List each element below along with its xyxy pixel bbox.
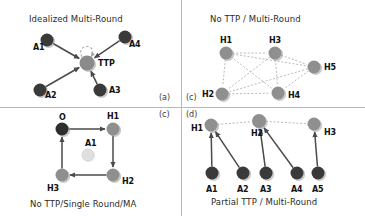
node-label-panel-c-top-h2: H2 — [202, 90, 214, 99]
node-panel-d-h3[interactable] — [308, 118, 323, 132]
edge-h3-h4 — [275, 59, 277, 85]
node-label-panel-c-top-h4: H4 — [288, 91, 300, 100]
node-panel-c-bottom-h3[interactable] — [56, 169, 71, 183]
node-label-panel-c-bottom-a1: A1 — [85, 139, 97, 148]
node-circle[interactable] — [252, 114, 266, 128]
node-circle[interactable] — [269, 47, 282, 60]
node-panel-c-bottom-h1[interactable] — [107, 123, 122, 137]
node-label-panel-c-bottom-h1: H1 — [107, 112, 119, 121]
node-circle[interactable] — [260, 167, 273, 180]
node-circle[interactable] — [107, 169, 120, 182]
node-panel-a-ttp[interactable] — [80, 56, 97, 72]
node-panel-d-a3[interactable] — [260, 167, 275, 181]
node-panel-c-bottom-h2[interactable] — [107, 169, 122, 183]
node-circle[interactable] — [220, 47, 233, 60]
node-label-panel-c-top-h5: H5 — [324, 63, 336, 72]
node-circle[interactable] — [107, 123, 120, 136]
node-label-panel-d-a4: A4 — [291, 185, 303, 194]
edge-a4-h2 — [264, 128, 293, 168]
node-circle[interactable] — [308, 61, 321, 74]
edge-h1-h2 — [223, 59, 226, 86]
node-label-panel-d-h3: H3 — [324, 128, 336, 137]
edge-a2-h1 — [215, 132, 239, 168]
node-label-panel-d-h2: H2 — [251, 129, 263, 138]
edge-a1-ttp — [53, 43, 80, 58]
node-panel-c-top-h1[interactable] — [220, 47, 235, 61]
node-circle[interactable] — [206, 167, 219, 180]
node-label-panel-d-a5: A5 — [312, 185, 324, 194]
node-label-panel-d-a3: A3 — [260, 185, 272, 194]
node-panel-d-h1[interactable] — [205, 119, 220, 133]
figure-root: Idealized Multi-Round No TTP / Multi-Rou… — [0, 0, 365, 216]
edge-a3-ttp — [91, 71, 97, 84]
node-circle[interactable] — [312, 167, 325, 180]
node-panel-d-h2[interactable] — [252, 114, 268, 129]
node-circle[interactable] — [82, 149, 94, 161]
node-panel-c-top-h2[interactable] — [216, 88, 231, 102]
node-circle[interactable] — [291, 167, 304, 180]
node-circle[interactable] — [308, 118, 321, 131]
node-panel-d-a4[interactable] — [291, 167, 306, 181]
node-circle[interactable] — [94, 84, 107, 97]
node-panel-c-top-h5[interactable] — [308, 61, 323, 75]
edge-h5-h4 — [284, 71, 308, 89]
edge-a4-ttp — [94, 41, 119, 58]
node-circle[interactable] — [56, 169, 69, 182]
node-panel-c-top-h3[interactable] — [269, 47, 284, 61]
node-circle[interactable] — [237, 167, 250, 180]
edge-a2-ttp — [46, 67, 80, 86]
node-panel-c-bottom-o[interactable] — [56, 123, 71, 137]
edge-h1-h2 — [217, 122, 250, 125]
node-label-panel-c-bottom-h3: H3 — [47, 184, 59, 193]
node-label-panel-a-ttp: TTP — [98, 59, 115, 68]
edge-h2-h3 — [266, 121, 306, 123]
edge-a1-h1 — [211, 133, 212, 167]
node-label-panel-d-h1: H1 — [191, 124, 203, 133]
node-label-panel-d-a1: A1 — [206, 185, 218, 194]
edge-h2-h4 — [228, 93, 270, 94]
node-label-panel-c-top-h3: H3 — [269, 36, 281, 45]
edge-self-loop-ttp — [81, 47, 93, 58]
node-label-panel-a-a2: A2 — [45, 91, 57, 100]
node-label-panel-a-a3: A3 — [109, 86, 121, 95]
node-circle[interactable] — [216, 88, 229, 101]
node-panel-d-a2[interactable] — [237, 167, 252, 181]
node-panel-c-top-h4[interactable] — [272, 87, 287, 101]
node-label-panel-a-a1: A1 — [33, 43, 45, 52]
node-label-panel-c-top-h1: H1 — [220, 36, 232, 45]
edge-h1-h4 — [231, 57, 272, 88]
node-panel-a-a3[interactable] — [94, 84, 109, 98]
node-circle[interactable] — [205, 119, 218, 132]
node-label-panel-c-bottom-o: O — [59, 113, 66, 122]
edge-h3-h5 — [281, 55, 306, 64]
edge-h3-h2 — [228, 57, 270, 89]
node-circle[interactable] — [80, 56, 95, 71]
node-label-panel-a-a4: A4 — [129, 40, 141, 49]
edge-a5-h3 — [315, 132, 318, 167]
node-label-panel-c-bottom-h2: H2 — [122, 177, 134, 186]
node-label-panel-d-a2: A2 — [237, 185, 249, 194]
node-panel-c-bottom-a1[interactable] — [82, 149, 96, 162]
node-circle[interactable] — [56, 123, 69, 136]
node-panel-d-a5[interactable] — [312, 167, 327, 181]
node-circle[interactable] — [272, 87, 285, 100]
node-panel-d-a1[interactable] — [206, 167, 221, 181]
